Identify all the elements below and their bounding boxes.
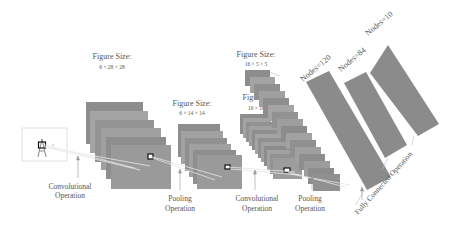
layer-s2: Figure Size: 6 × 14 × 14 [173,99,242,189]
cnn-diagram: Input: 32 × 32 Figure Size: 6 × 28 × 28 … [0,0,459,225]
conv1-label-2: Operation [55,191,85,200]
pool2-label-1: Pooling [298,194,322,203]
c1-size: 6 × 28 × 28 [99,64,125,70]
layer-c1: Figure Size: 6 × 28 × 28 [86,52,171,189]
pool1-label-1: Pooling [168,194,192,203]
input-block: Input: 32 × 32 [22,128,67,161]
fc-10-label: Nodes=10 [364,9,395,37]
pool2-label-2: Operation [295,204,325,213]
fc-84-label: Nodes=84 [337,45,368,73]
s2-size: 6 × 14 × 14 [179,110,205,116]
conv1-label-1: Convolutional [49,182,92,191]
c1-label: Figure Size: [93,52,132,61]
s2-label: Figure Size: [173,99,212,108]
s4-label: Figure Size: [237,50,276,59]
conv2-label-2: Operation [242,204,272,213]
pool1-label-2: Operation [165,204,195,213]
s4-size: 16 × 5 × 5 [245,61,268,67]
input-image-frame [22,128,67,161]
conv2-label-1: Convolutional [236,194,279,203]
